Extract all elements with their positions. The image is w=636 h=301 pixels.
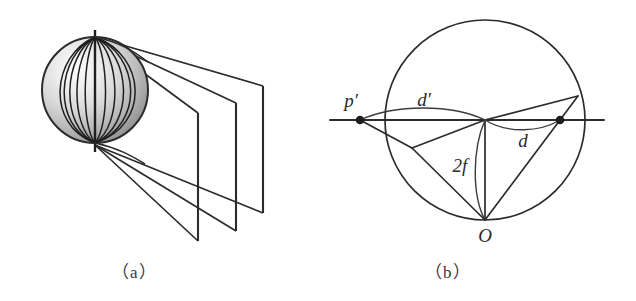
panel-b: p′ d′ d 2f O: [330, 20, 604, 246]
chord-to-right-intersection: [485, 96, 578, 120]
projection-rays-lower: [95, 145, 263, 241]
label-origin-O: O: [478, 225, 492, 246]
projection-planes: [198, 86, 263, 241]
ray-lower-3: [95, 145, 198, 241]
arc-d: [485, 120, 560, 130]
panel-a: [42, 30, 263, 241]
label-2f: 2f: [453, 155, 471, 176]
figure-svg: p′ d′ d 2f O: [0, 0, 636, 301]
caption-panel-a: （a）: [112, 258, 157, 283]
ray-O-to-pprime: [412, 148, 485, 220]
arc-2f: [475, 120, 485, 220]
point-p-prime-dot: [356, 116, 365, 125]
point-p-dot: [556, 116, 565, 125]
chord-to-left-intersection: [412, 120, 485, 148]
caption-panel-b: （b）: [425, 258, 471, 283]
ray-lower-1: [95, 145, 263, 213]
ray-lower-2: [95, 145, 236, 231]
ray-O-to-pprime-extension: [360, 120, 412, 148]
label-p-prime: p′: [342, 90, 359, 111]
label-d: d: [518, 130, 528, 151]
label-d-prime: d′: [417, 89, 432, 110]
figure-root: p′ d′ d 2f O （a） （b）: [0, 0, 636, 301]
